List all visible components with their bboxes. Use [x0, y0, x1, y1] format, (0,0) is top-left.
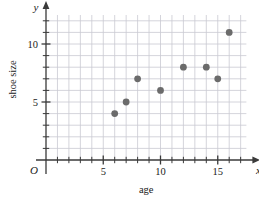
x-tick-label: 5 — [101, 166, 106, 177]
y-tick-label: 5 — [33, 97, 38, 108]
data-point: (16, 11) — [226, 29, 233, 36]
data-point: (15, 7) — [214, 75, 221, 82]
y-axis-letter: y — [33, 1, 39, 13]
x-tick-label: 10 — [155, 166, 166, 177]
tick-labels: 51015510 — [28, 39, 224, 177]
data-point: (6, 4) — [111, 110, 118, 117]
y-axis-arrow-icon — [43, 1, 50, 9]
x-axis-letter: x — [255, 164, 259, 176]
origin-label: O — [30, 164, 38, 176]
x-axis-arrow-icon — [252, 157, 259, 164]
data-point: (7, 5) — [123, 99, 130, 106]
data-point: (12, 8) — [180, 64, 187, 71]
y-axis-title: shoe size — [7, 60, 18, 99]
axis-ticks — [42, 21, 241, 165]
x-tick-label: 15 — [213, 166, 224, 177]
y-tick-label: 10 — [28, 39, 39, 50]
data-point: (10, 6) — [157, 87, 164, 94]
plot-canvas: 51015510 (6, 4)(7, 5)(8, 7)(10, 6)(12, 8… — [0, 0, 259, 199]
x-axis-title: age — [139, 184, 154, 195]
scatter-plot-figure: 51015510 (6, 4)(7, 5)(8, 7)(10, 6)(12, 8… — [0, 0, 259, 199]
grid-lines — [46, 15, 246, 160]
data-point: (14, 8) — [203, 64, 210, 71]
data-point: (8, 7) — [134, 75, 141, 82]
